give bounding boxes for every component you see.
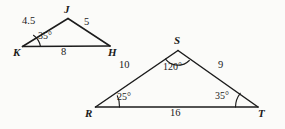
side-label-rt: 16 [170,108,181,119]
triangle-jkh-shape [23,19,111,47]
side-label-kj: 4.5 [22,16,35,27]
geometry-figure: J K H 4.5 5 8 35° S R T 10 9 16 25° 120°… [0,0,285,129]
vertex-label-r: R [85,108,92,119]
vertex-label-s: S [174,35,180,46]
triangles-svg [0,0,285,129]
side-label-st: 9 [218,60,223,71]
angle-label-s: 120° [163,62,182,72]
angle-label-t: 35° [215,91,229,101]
side-label-kh: 8 [61,47,66,58]
vertex-label-j: J [64,4,70,15]
vertex-label-t: T [258,108,265,119]
vertex-label-k: K [13,47,20,58]
angle-label-k: 35° [38,31,52,41]
vertex-label-h: H [108,47,117,58]
angle-label-r: 25° [117,92,131,102]
side-label-rs: 10 [119,60,130,71]
segment-kh [23,46,111,47]
side-label-jh: 5 [84,17,89,28]
angle-arc-t [236,93,241,107]
